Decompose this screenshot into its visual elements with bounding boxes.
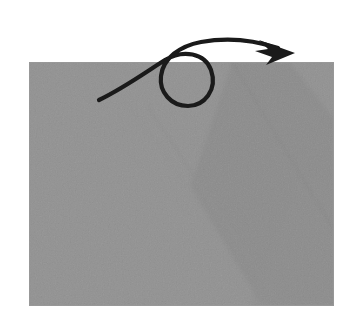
origami-diagram: Turn the paper over [0, 0, 359, 325]
paper-sheet [29, 62, 334, 306]
diagram-canvas [0, 0, 359, 325]
paper-grain-overlay [29, 62, 334, 306]
